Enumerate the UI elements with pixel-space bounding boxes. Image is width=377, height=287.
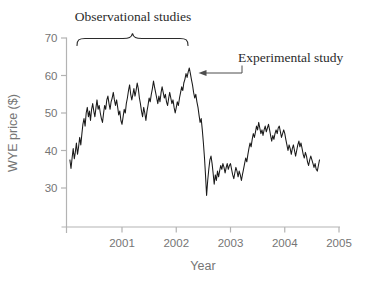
x-axis-ticks: 20012002200320042005 [109, 227, 352, 249]
figure: Observational studies Experimental study… [0, 0, 377, 287]
x-tick-label: 2002 [163, 237, 189, 249]
y-axis-title: WYE price ($) [6, 94, 20, 172]
y-axis-ticks: 3040506070 [45, 32, 67, 194]
y-tick-label: 30 [45, 182, 58, 194]
annotation-arrow-line [205, 66, 242, 74]
y-tick-label: 60 [45, 70, 58, 82]
x-tick-label: 2005 [326, 237, 352, 249]
arrowhead-icon [199, 70, 207, 76]
x-tick-label: 2003 [218, 237, 244, 249]
observational-studies-label: Observational studies [75, 9, 192, 24]
chart-canvas: Observational studies Experimental study… [0, 0, 377, 287]
experimental-study-label: Experimental study [238, 50, 344, 65]
price-line-series [70, 68, 320, 196]
x-tick-label: 2004 [272, 237, 298, 249]
y-tick-label: 50 [45, 107, 58, 119]
x-axis-title: Year [190, 259, 215, 273]
y-tick-label: 40 [45, 145, 58, 157]
curly-brace-icon [77, 34, 188, 46]
x-tick-label: 2001 [109, 237, 135, 249]
y-tick-label: 70 [45, 32, 58, 44]
